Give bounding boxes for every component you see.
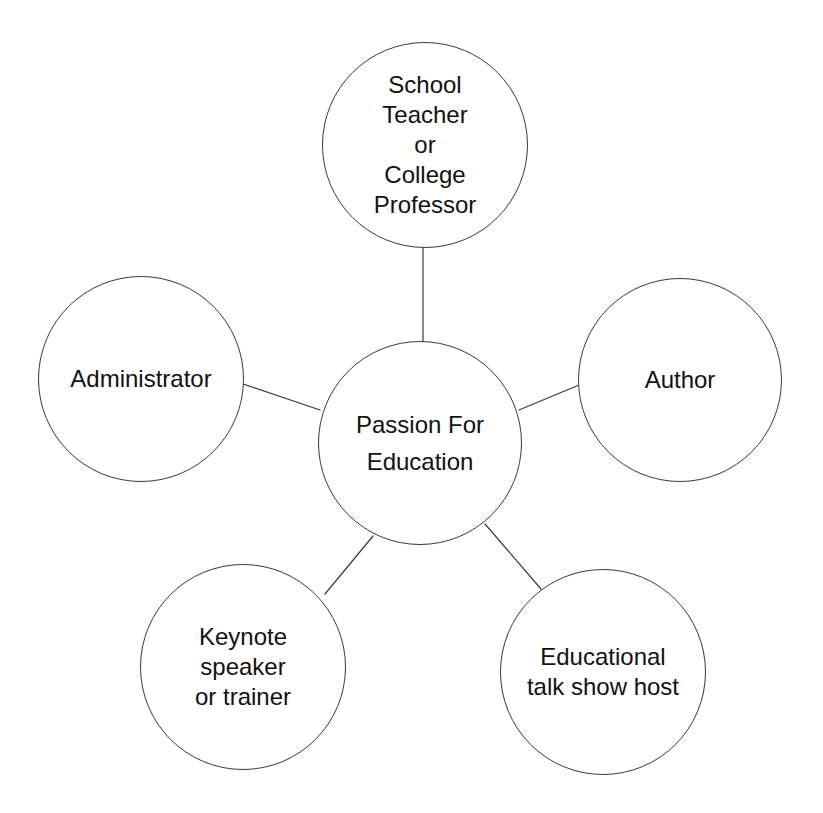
node-passion-for-education[interactable]: Passion For Education — [318, 341, 522, 545]
node-educational-talk-show-host[interactable]: Educational talk show host — [500, 569, 706, 775]
connector-center-to-keynote-speaker — [325, 536, 373, 594]
connector-center-to-administrator — [243, 384, 320, 410]
connector-center-to-author — [519, 385, 579, 410]
node-keynote-speaker-or-trainer[interactable]: Keynote speaker or trainer — [140, 564, 346, 770]
node-label-passion-for-education: Passion For Education — [352, 406, 488, 480]
node-school-teacher-or-college-professor[interactable]: School Teacher or College Professor — [322, 42, 528, 248]
node-author[interactable]: Author — [578, 278, 782, 482]
node-label-author: Author — [641, 365, 720, 395]
node-label-keynote-speaker-or-trainer: Keynote speaker or trainer — [191, 622, 295, 712]
node-label-school-teacher-or-college-professor: School Teacher or College Professor — [370, 70, 481, 220]
diagram-canvas: School Teacher or College Professor Admi… — [0, 0, 823, 813]
connector-center-to-educational-talk-show-host — [485, 524, 541, 589]
node-label-educational-talk-show-host: Educational talk show host — [523, 642, 683, 702]
node-administrator[interactable]: Administrator — [38, 276, 244, 482]
node-label-administrator: Administrator — [66, 364, 215, 394]
